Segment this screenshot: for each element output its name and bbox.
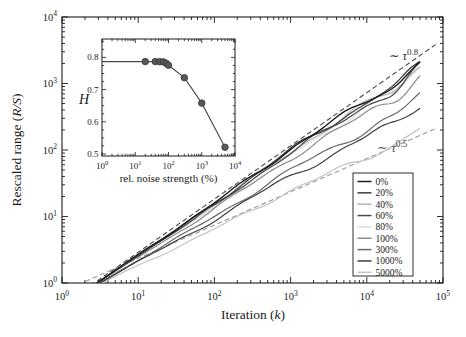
inset-x-tick-label: 103 — [196, 159, 208, 171]
inset-data-point-100 — [165, 62, 172, 69]
legend-label: 5000% — [376, 268, 403, 278]
chart-canvas: 100101102103104105100101102103104Iterati… — [0, 0, 466, 337]
inset-data-point-5000 — [222, 144, 229, 151]
inset-data-point-20 — [142, 58, 149, 65]
inset-data-point-1000 — [198, 100, 205, 107]
main-x-tick-label: 100 — [55, 289, 70, 302]
main-y-tick-label: 102 — [43, 142, 58, 155]
legend: 0%20%40%60%80%100%300%1000%5000% — [353, 173, 413, 278]
main-x-tick-label: 102 — [207, 289, 222, 302]
legend-label: 80% — [376, 222, 394, 232]
inset-y-tick-label: 0.8 — [87, 52, 99, 62]
legend-label: 40% — [376, 200, 394, 210]
main-x-tick-label: 101 — [131, 289, 146, 302]
legend-label: 60% — [376, 211, 394, 221]
main-y-tick-label: 100 — [43, 275, 58, 288]
legend-label: 300% — [376, 245, 398, 255]
slope-annotation-0.8: ∼ τ0.8 — [389, 47, 419, 63]
main-x-tick-label: 104 — [360, 289, 375, 302]
figure-rescaled-range-plot: 100101102103104105100101102103104Iterati… — [0, 0, 466, 337]
inset-x-tick-label: 102 — [162, 159, 174, 171]
inset-y-tick-label: 0.5 — [87, 149, 99, 159]
inset-x-tick-label: 100 — [96, 159, 108, 171]
inset-x-tick-label: 101 — [129, 159, 141, 171]
inset-plot: 1001011021031040.50.60.70.8Hrel. noise s… — [78, 39, 242, 185]
main-y-tick-label: 103 — [43, 76, 58, 89]
legend-label: 0% — [376, 177, 389, 187]
main-x-axis-title: Iteration (k) — [221, 307, 285, 322]
inset-y-tick-label: 0.6 — [87, 117, 99, 127]
main-x-tick-label: 103 — [283, 289, 298, 302]
inset-y-axis-title: H — [78, 92, 90, 107]
inset-data-point-300 — [181, 74, 188, 81]
inset-frame — [102, 39, 235, 156]
legend-label: 100% — [376, 234, 398, 244]
legend-label: 1000% — [376, 256, 403, 266]
main-y-tick-label: 104 — [43, 9, 58, 22]
inset-x-axis-title: rel. noise strength (%) — [120, 172, 218, 185]
main-y-tick-label: 101 — [43, 209, 58, 222]
slope-annotation-0.5: ∼ τ0.5 — [377, 139, 408, 155]
legend-label: 20% — [376, 188, 394, 198]
inset-x-tick-label: 104 — [229, 159, 242, 171]
main-y-axis-title: Rescaled range (R/S) — [9, 93, 24, 206]
main-x-tick-label: 105 — [436, 289, 451, 302]
